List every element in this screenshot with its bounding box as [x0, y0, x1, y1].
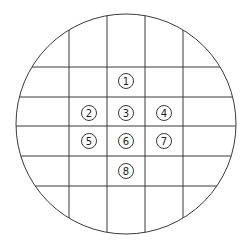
marker-6: 6	[119, 134, 134, 149]
plate-outline	[16, 14, 236, 234]
marker-label: 7	[161, 136, 167, 147]
marker-4: 4	[157, 106, 172, 121]
diagram-canvas: 12345678	[0, 0, 244, 249]
plate-grid-diagram: 12345678	[0, 0, 244, 249]
marker-label: 4	[161, 108, 167, 119]
grid-lines	[14, 12, 238, 236]
marker-7: 7	[157, 134, 172, 149]
marker-label: 6	[123, 136, 129, 147]
marker-1: 1	[119, 74, 134, 89]
marker-3: 3	[119, 106, 134, 121]
marker-8: 8	[119, 164, 134, 179]
marker-5: 5	[82, 134, 97, 149]
marker-2: 2	[82, 106, 97, 121]
marker-label: 1	[123, 76, 129, 87]
marker-label: 5	[86, 136, 92, 147]
marker-label: 2	[86, 108, 92, 119]
marker-label: 3	[123, 108, 129, 119]
marker-label: 8	[123, 166, 129, 177]
